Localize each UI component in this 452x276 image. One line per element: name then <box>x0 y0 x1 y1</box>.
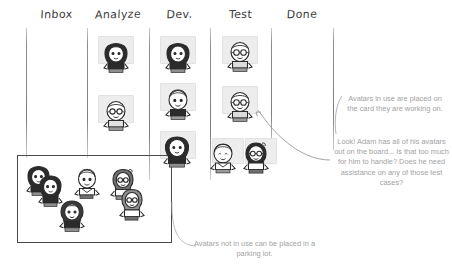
avatar-dark-hair-3[interactable] <box>160 133 194 169</box>
column-divider-6 <box>333 28 334 150</box>
avatar-curly-glasses-1[interactable] <box>240 139 272 175</box>
column-divider-1 <box>26 28 27 158</box>
column-header-inbox: Inbox <box>26 7 88 21</box>
column-header-analyze: Analyze <box>87 7 150 21</box>
avatar-dark-hair-2[interactable] <box>162 40 194 74</box>
avatar-parking-5[interactable] <box>117 185 147 223</box>
avatar-light-hair-2[interactable] <box>207 141 239 175</box>
avatar-adam-2[interactable] <box>224 89 256 123</box>
annotation-avatars-parking: Avatars not in use can be placed in a pa… <box>192 239 317 259</box>
annotation-adam-overloaded: Look! Adam has all of his avatars out on… <box>333 137 450 188</box>
column-divider-2 <box>87 28 88 158</box>
column-divider-5 <box>271 28 272 150</box>
avatar-light-hair-1[interactable] <box>162 87 194 121</box>
annotation-avatars-in-use: Avatars in use are placed on the card th… <box>343 94 447 114</box>
avatar-bald-glasses-1[interactable] <box>100 98 132 132</box>
column-header-test: Test <box>210 7 272 21</box>
avatar-parking-6[interactable] <box>56 196 88 234</box>
column-header-dev: Dev. <box>149 7 211 21</box>
kanban-board: Inbox Analyze Dev. Test Done <box>0 0 452 276</box>
column-header-done: Done <box>271 7 334 21</box>
leader-line-avatars-in-use <box>335 96 342 134</box>
avatar-adam-1[interactable] <box>224 39 256 73</box>
avatar-dark-hair-1[interactable] <box>100 40 132 74</box>
avatar-parking-3[interactable] <box>72 166 102 200</box>
